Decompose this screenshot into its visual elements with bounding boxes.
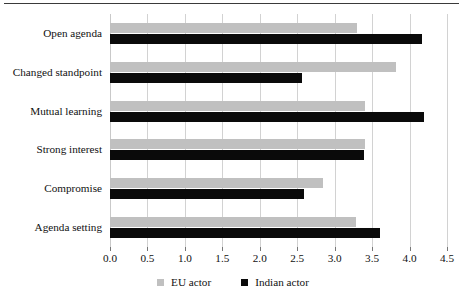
x-tick-mark	[447, 247, 448, 251]
legend-label: EU actor	[171, 276, 211, 288]
gridline-4.0	[410, 14, 411, 247]
legend-swatch-icon	[241, 279, 248, 286]
category-label: Mutual learning	[0, 106, 102, 117]
bar-chart: Open agendaChanged standpointMutual lear…	[0, 0, 466, 298]
gridline-0.5	[147, 14, 148, 247]
category-label: Compromise	[0, 183, 102, 194]
bar-group	[110, 139, 447, 163]
x-tick-mark	[110, 247, 111, 251]
x-tick-label: 2.5	[280, 252, 314, 264]
bar-eu-actor	[110, 217, 356, 227]
bar-group	[110, 178, 447, 202]
x-tick-label: 1.5	[205, 252, 239, 264]
bar-eu-actor	[110, 139, 365, 149]
gridline-0.0	[110, 14, 111, 247]
x-tick-mark	[147, 247, 148, 251]
gridline-1.0	[185, 14, 186, 247]
gridline-2.5	[297, 14, 298, 247]
x-tick-mark	[410, 247, 411, 251]
x-tick-mark	[260, 247, 261, 251]
bar-group	[110, 62, 447, 86]
plot-area: Open agendaChanged standpointMutual lear…	[110, 14, 447, 247]
x-tick-mark	[185, 247, 186, 251]
gridline-3.5	[372, 14, 373, 247]
legend-swatch-icon	[157, 279, 164, 286]
legend-item[interactable]: EU actor	[157, 276, 211, 288]
gridline-1.5	[222, 14, 223, 247]
x-axis: 0.00.51.01.52.02.53.03.54.04.5	[110, 247, 447, 267]
category-label: Open agenda	[0, 28, 102, 39]
top-divider-rule	[4, 3, 459, 4]
category-label: Strong interest	[0, 144, 102, 155]
x-tick-mark	[297, 247, 298, 251]
x-tick-label: 0.5	[130, 252, 164, 264]
bar-group	[110, 101, 447, 125]
chart-legend: EU actorIndian actor	[0, 272, 466, 292]
bar-group	[110, 23, 447, 47]
bar-indian-actor	[110, 112, 424, 122]
category-label: Agenda setting	[0, 222, 102, 233]
x-tick-label: 2.0	[243, 252, 277, 264]
x-tick-mark	[222, 247, 223, 251]
gridline-2.0	[260, 14, 261, 247]
bar-indian-actor	[110, 150, 364, 160]
bar-indian-actor	[110, 189, 304, 199]
gridline-3.0	[335, 14, 336, 247]
x-tick-label: 4.0	[393, 252, 427, 264]
x-tick-label: 1.0	[168, 252, 202, 264]
legend-item[interactable]: Indian actor	[241, 276, 309, 288]
legend-label: Indian actor	[255, 276, 309, 288]
bar-indian-actor	[110, 73, 302, 83]
x-tick-mark	[372, 247, 373, 251]
gridline-4.5	[447, 14, 448, 247]
category-label: Changed standpoint	[0, 67, 102, 78]
bar-indian-actor	[110, 228, 380, 238]
x-tick-label: 4.5	[430, 252, 464, 264]
bar-eu-actor	[110, 101, 365, 111]
bar-indian-actor	[110, 34, 422, 44]
bar-eu-actor	[110, 178, 323, 188]
bar-eu-actor	[110, 23, 357, 33]
x-tick-label: 3.5	[355, 252, 389, 264]
bar-group	[110, 217, 447, 241]
x-tick-mark	[335, 247, 336, 251]
x-tick-label: 3.0	[318, 252, 352, 264]
x-tick-label: 0.0	[93, 252, 127, 264]
bar-eu-actor	[110, 62, 396, 72]
